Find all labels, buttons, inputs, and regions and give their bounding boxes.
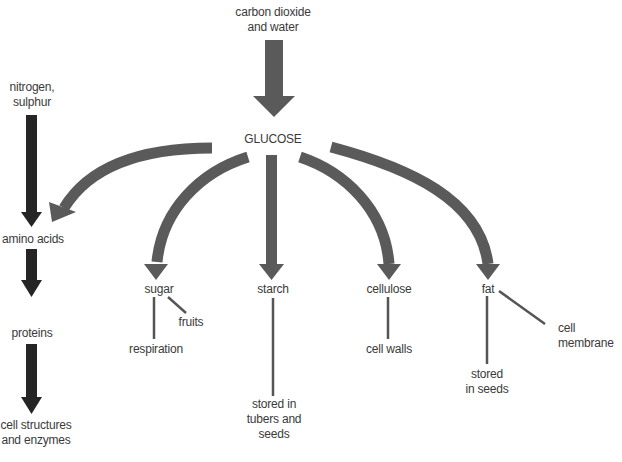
arrow-amino-acids-to-proteins [21,249,42,297]
label-nitrogen-sulphur: nitrogen, sulphur [10,80,55,110]
line-sugar-fruits [168,297,186,313]
label-respiration: respiration [129,342,183,357]
label-cell-walls: cell walls [366,342,412,357]
arrow-source-to-glucose [253,40,295,117]
label-sugar: sugar [144,282,173,297]
arrows-layer [0,0,622,462]
label-starch: starch [257,282,288,297]
label-fat: fat [482,282,495,297]
arrow-glucose-to-amino-acids [49,148,212,222]
label-cell-structures-enzymes: cell structures and enzymes [0,418,71,448]
label-amino-acids: amino acids [2,232,64,247]
line-fat-membrane [499,291,545,324]
arrow-proteins-to-cell-structures [21,344,42,414]
arrow-glucose-to-sugar [144,157,248,280]
arrow-glucose-to-starch [259,155,284,280]
label-cell-membrane: cell membrane [558,321,614,351]
glucose-uses-diagram: carbon dioxide and water GLUCOSE nitroge… [0,0,622,462]
arrow-minerals-to-amino-acids [21,115,42,227]
label-carbon-dioxide-water: carbon dioxide and water [235,5,310,35]
label-starch-stored: stored in tubers and seeds [247,397,302,442]
label-glucose: GLUCOSE [244,132,301,147]
label-fat-stored-seeds: stored in seeds [465,367,508,397]
arrow-glucose-to-cellulose [300,157,401,280]
label-cellulose: cellulose [367,282,412,297]
label-fruits: fruits [179,315,204,330]
arrow-glucose-to-fat [331,147,500,280]
label-proteins: proteins [11,326,52,341]
